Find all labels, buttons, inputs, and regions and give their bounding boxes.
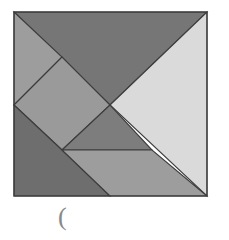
caption-text: ( — [58, 197, 178, 237]
tangram-figure: ( — [0, 0, 229, 240]
